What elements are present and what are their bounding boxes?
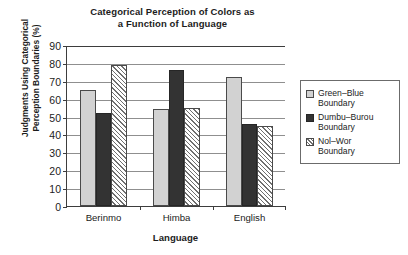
- y-tick-label-60: 60: [49, 94, 61, 105]
- chart-title: Categorical Perception of Colors as a Fu…: [60, 6, 285, 30]
- y-tick-label-70: 70: [49, 77, 61, 88]
- plot-area: 0102030405060708090 BerinmoHimbaEnglish: [66, 46, 285, 207]
- x-tick-label-english: English: [234, 213, 265, 223]
- y-tick-label-40: 40: [49, 130, 61, 141]
- bar-himba-series-0: [153, 109, 169, 206]
- y-axis-title-line-2: Perception Boundaries (%): [31, 0, 42, 173]
- legend-item-2[interactable]: Nol–WorBoundary: [306, 136, 395, 156]
- y-axis-title-line-1: Judgments Using Categorical: [20, 0, 31, 173]
- legend-label-0-line-1: Boundary: [318, 98, 364, 108]
- bar-chart-figure: Categorical Perception of Colors as a Fu…: [0, 0, 408, 255]
- legend-label-0: Green–BlueBoundary: [318, 88, 364, 108]
- legend-label-2-line-1: Boundary: [318, 146, 355, 156]
- chart-title-line-1: Categorical Perception of Colors as: [60, 6, 285, 18]
- legend-item-1[interactable]: Dumbu–BurouBoundary: [306, 112, 395, 132]
- y-tick-label-30: 30: [49, 148, 61, 159]
- x-axis-title: Language: [66, 232, 285, 243]
- bar-english-series-0: [226, 77, 242, 206]
- legend-swatch-light-gray-icon: [306, 90, 314, 98]
- bar-english-series-2: [257, 126, 273, 207]
- bar-berinmo-series-0: [80, 90, 96, 206]
- y-tick-0: [63, 207, 67, 208]
- y-tick-label-20: 20: [49, 166, 61, 177]
- y-axis-title: Judgments Using Categorical Perception B…: [20, 0, 46, 173]
- x-tick-label-berinmo: Berinmo: [86, 213, 122, 223]
- bar-berinmo-series-2: [111, 65, 127, 206]
- legend-label-1: Dumbu–BurouBoundary: [318, 112, 373, 132]
- legend-label-2-line-0: Nol–Wor: [318, 136, 355, 146]
- y-tick-label-10: 10: [49, 184, 61, 195]
- legend-label-2: Nol–WorBoundary: [318, 136, 355, 156]
- y-tick-label-90: 90: [49, 41, 61, 52]
- bar-berinmo-series-1: [96, 113, 112, 206]
- x-tick-end: [285, 206, 286, 210]
- bar-english-series-1: [242, 124, 258, 206]
- legend-swatch-diagonal-hatch-icon: [306, 138, 314, 146]
- chart-title-line-2: a Function of Language: [60, 18, 285, 30]
- y-tick-label-80: 80: [49, 59, 61, 70]
- bar-himba-series-1: [169, 70, 185, 206]
- x-tick-2: [213, 206, 214, 210]
- legend-label-1-line-0: Dumbu–Burou: [318, 112, 373, 122]
- legend-label-1-line-1: Boundary: [318, 122, 373, 132]
- legend-swatch-solid-dark-icon: [306, 114, 314, 122]
- bar-himba-series-2: [184, 108, 200, 206]
- x-tick-label-himba: Himba: [163, 213, 191, 223]
- y-tick-label-50: 50: [49, 112, 61, 123]
- legend-label-0-line-0: Green–Blue: [318, 88, 364, 98]
- bars-layer: [67, 46, 285, 206]
- legend-item-0[interactable]: Green–BlueBoundary: [306, 88, 395, 108]
- legend: Green–BlueBoundaryDumbu–BurouBoundaryNol…: [300, 80, 400, 164]
- y-tick-label-0: 0: [55, 202, 61, 213]
- x-tick-1: [140, 206, 141, 210]
